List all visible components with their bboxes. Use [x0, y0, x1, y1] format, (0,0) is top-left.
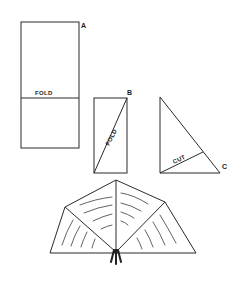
- step-c-triangle: C CUT: [160, 97, 227, 173]
- folding-instructions-diagram: A FOLD B FOLD C CUT: [0, 0, 237, 285]
- result-fan: [50, 180, 196, 264]
- step-a-label: A: [81, 22, 86, 29]
- step-a-rectangle: A FOLD: [21, 22, 86, 148]
- step-b-fold-label: FOLD: [105, 128, 119, 147]
- step-b-label: B: [127, 89, 132, 96]
- step-a-fold-label: FOLD: [35, 90, 53, 96]
- step-b-square: B FOLD: [94, 89, 132, 173]
- tassel: [111, 249, 121, 264]
- step-c-label: C: [222, 163, 227, 170]
